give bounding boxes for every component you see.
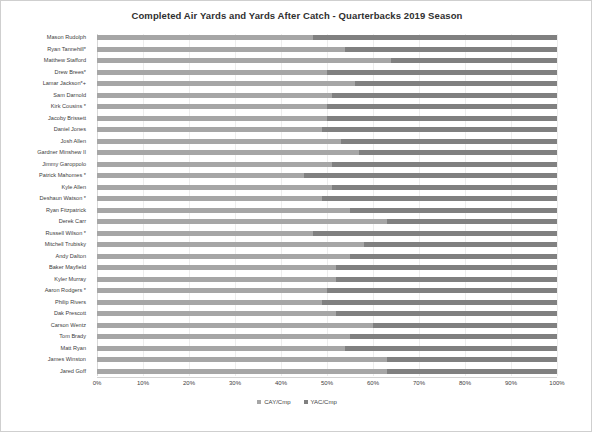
bar-segment-cay[interactable]	[97, 70, 327, 75]
bar-row[interactable]	[97, 127, 557, 132]
x-axis-tick-label: 100%	[549, 380, 564, 386]
bar-row[interactable]	[97, 70, 557, 75]
bar-segment-yac[interactable]	[327, 116, 557, 121]
bar-row[interactable]	[97, 231, 557, 236]
y-axis-label: Russell Wilson *	[1, 231, 91, 236]
bar-segment-yac[interactable]	[304, 173, 557, 178]
bar-segment-cay[interactable]	[97, 173, 304, 178]
bar-segment-cay[interactable]	[97, 208, 350, 213]
bar-segment-yac[interactable]	[350, 208, 557, 213]
legend-item[interactable]: CAY/Cmp	[257, 399, 290, 405]
bar-row[interactable]	[97, 334, 557, 339]
bar-segment-cay[interactable]	[97, 93, 332, 98]
bar-segment-cay[interactable]	[97, 334, 350, 339]
bar-segment-yac[interactable]	[359, 150, 557, 155]
bar-segment-yac[interactable]	[327, 70, 557, 75]
bar-segment-cay[interactable]	[97, 231, 313, 236]
bar-segment-yac[interactable]	[322, 196, 557, 201]
bar-row[interactable]	[97, 47, 557, 52]
bar-segment-cay[interactable]	[97, 254, 350, 259]
bar-row[interactable]	[97, 139, 557, 144]
bar-segment-cay[interactable]	[97, 196, 322, 201]
bar-segment-cay[interactable]	[97, 127, 322, 132]
x-axis-tick-label: 10%	[137, 380, 149, 386]
bar-segment-yac[interactable]	[336, 265, 557, 270]
bar-row[interactable]	[97, 93, 557, 98]
bar-segment-cay[interactable]	[97, 346, 345, 351]
bar-segment-yac[interactable]	[313, 35, 557, 40]
bar-row[interactable]	[97, 323, 557, 328]
bar-segment-yac[interactable]	[373, 323, 557, 328]
bar-row[interactable]	[97, 58, 557, 63]
bar-row[interactable]	[97, 208, 557, 213]
bar-segment-yac[interactable]	[327, 288, 557, 293]
bar-segment-yac[interactable]	[336, 311, 557, 316]
bar-row[interactable]	[97, 265, 557, 270]
bar-segment-cay[interactable]	[97, 81, 355, 86]
bar-segment-cay[interactable]	[97, 47, 345, 52]
bar-segment-yac[interactable]	[341, 139, 557, 144]
bar-segment-yac[interactable]	[332, 162, 557, 167]
bar-segment-cay[interactable]	[97, 277, 336, 282]
bar-segment-yac[interactable]	[391, 58, 557, 63]
bar-segment-yac[interactable]	[313, 231, 557, 236]
bar-segment-yac[interactable]	[345, 346, 557, 351]
bar-segment-cay[interactable]	[97, 35, 313, 40]
bar-segment-cay[interactable]	[97, 104, 327, 109]
bar-segment-cay[interactable]	[97, 116, 327, 121]
bar-row[interactable]	[97, 219, 557, 224]
bar-segment-yac[interactable]	[345, 47, 557, 52]
x-axis-tick-label: 80%	[459, 380, 471, 386]
bar-row[interactable]	[97, 300, 557, 305]
bar-row[interactable]	[97, 162, 557, 167]
bar-segment-yac[interactable]	[364, 242, 557, 247]
bar-segment-cay[interactable]	[97, 369, 387, 374]
legend-label: CAY/Cmp	[264, 399, 290, 405]
bar-row[interactable]	[97, 242, 557, 247]
bar-row[interactable]	[97, 277, 557, 282]
chart-legend: CAY/CmpYAC/Cmp	[1, 399, 592, 405]
bar-segment-yac[interactable]	[355, 81, 557, 86]
bar-segment-cay[interactable]	[97, 300, 322, 305]
bar-segment-yac[interactable]	[322, 300, 557, 305]
bar-segment-yac[interactable]	[332, 185, 557, 190]
bar-segment-yac[interactable]	[327, 104, 557, 109]
bar-row[interactable]	[97, 116, 557, 121]
y-axis-label: Mitchell Trubisky	[1, 242, 91, 247]
bar-segment-cay[interactable]	[97, 219, 387, 224]
bar-row[interactable]	[97, 35, 557, 40]
bar-segment-yac[interactable]	[350, 254, 557, 259]
bar-row[interactable]	[97, 185, 557, 190]
bar-row[interactable]	[97, 104, 557, 109]
bar-segment-cay[interactable]	[97, 139, 341, 144]
bar-segment-cay[interactable]	[97, 311, 336, 316]
bar-row[interactable]	[97, 311, 557, 316]
bar-row[interactable]	[97, 369, 557, 374]
legend-item[interactable]: YAC/Cmp	[304, 399, 337, 405]
bar-segment-cay[interactable]	[97, 357, 387, 362]
bar-segment-yac[interactable]	[387, 219, 557, 224]
bar-row[interactable]	[97, 81, 557, 86]
bar-row[interactable]	[97, 150, 557, 155]
bar-segment-cay[interactable]	[97, 323, 373, 328]
bar-row[interactable]	[97, 173, 557, 178]
bar-row[interactable]	[97, 346, 557, 351]
bar-segment-cay[interactable]	[97, 265, 336, 270]
bar-row[interactable]	[97, 254, 557, 259]
bar-segment-cay[interactable]	[97, 162, 332, 167]
bar-row[interactable]	[97, 288, 557, 293]
bar-segment-yac[interactable]	[387, 357, 557, 362]
bar-segment-yac[interactable]	[350, 334, 557, 339]
bar-row[interactable]	[97, 357, 557, 362]
bar-segment-yac[interactable]	[322, 127, 557, 132]
bar-segment-cay[interactable]	[97, 288, 327, 293]
bar-segment-cay[interactable]	[97, 58, 391, 63]
bar-segment-cay[interactable]	[97, 185, 332, 190]
x-axis-tick-label: 60%	[367, 380, 379, 386]
bar-segment-yac[interactable]	[336, 277, 557, 282]
bar-segment-cay[interactable]	[97, 150, 359, 155]
bar-segment-cay[interactable]	[97, 242, 364, 247]
bar-segment-yac[interactable]	[332, 93, 557, 98]
bar-segment-yac[interactable]	[387, 369, 557, 374]
bar-row[interactable]	[97, 196, 557, 201]
